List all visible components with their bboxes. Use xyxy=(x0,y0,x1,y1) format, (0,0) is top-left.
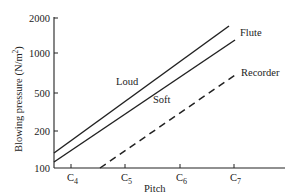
x-tick-c4: C4 xyxy=(67,172,78,186)
chart: 2000 1000 500 200 100 C4 C5 C6 C7 Pitch … xyxy=(0,0,296,195)
y-tick-1000: 1000 xyxy=(29,48,50,59)
recorder-line xyxy=(100,73,238,168)
x-ticks xyxy=(71,164,234,168)
x-tick-c6: C6 xyxy=(176,172,187,186)
flute-soft-line xyxy=(54,40,235,162)
y-tick-500: 500 xyxy=(34,88,50,99)
x-tick-c5: C5 xyxy=(121,172,132,186)
y-ticks xyxy=(54,18,58,131)
loud-label: Loud xyxy=(116,76,139,87)
y-tick-200: 200 xyxy=(34,126,50,137)
soft-label: Soft xyxy=(153,94,171,105)
y-tick-2000: 2000 xyxy=(29,13,50,24)
flute-loud-line xyxy=(54,26,229,153)
y-tick-labels: 2000 1000 500 200 100 xyxy=(29,13,50,174)
recorder-label: Recorder xyxy=(241,67,280,78)
flute-label: Flute xyxy=(240,27,262,38)
y-tick-100: 100 xyxy=(34,163,50,174)
y-axis-title: Blowing pressure (N/m2) xyxy=(11,46,25,152)
x-axis-title: Pitch xyxy=(144,183,166,194)
x-tick-c7: C7 xyxy=(230,172,241,186)
